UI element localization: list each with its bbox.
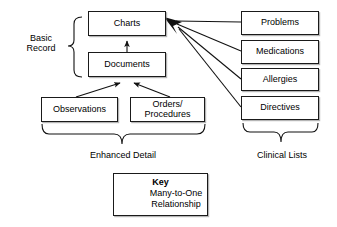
node-directives[interactable]: Directives xyxy=(241,96,319,120)
group-label-enhanced-detail: Enhanced Detail xyxy=(62,150,184,160)
node-medications-label: Medications xyxy=(256,47,304,57)
enhanced-detail-brace xyxy=(42,124,205,144)
node-observations-label: Observations xyxy=(53,105,106,115)
key-legend-box: Key Many-to-One Relationship xyxy=(113,173,208,216)
key-title: Key xyxy=(114,177,207,187)
clinical-lists-brace xyxy=(243,123,318,142)
node-orders-procedures-label: Orders/ Procedures xyxy=(144,100,190,120)
key-description: Many-to-One Relationship xyxy=(144,188,208,211)
diagram-canvas: Charts Documents Observations Orders/ Pr… xyxy=(0,0,337,227)
node-charts-label: Charts xyxy=(114,19,141,29)
basic-record-brace xyxy=(68,17,82,77)
node-problems[interactable]: Problems xyxy=(241,11,319,35)
node-directives-label: Directives xyxy=(260,103,300,113)
edge-directives-to-charts xyxy=(179,29,241,107)
node-orders-procedures[interactable]: Orders/ Procedures xyxy=(130,97,205,122)
node-documents[interactable]: Documents xyxy=(88,52,166,77)
edge-problems-to-charts xyxy=(176,21,241,22)
node-problems-label: Problems xyxy=(261,18,299,28)
edge-medications-to-charts xyxy=(177,24,241,51)
node-allergies-label: Allergies xyxy=(263,75,298,85)
node-medications[interactable]: Medications xyxy=(241,40,319,64)
edge-allergies-to-charts xyxy=(178,27,241,79)
group-label-basic-record: Basic Record xyxy=(14,33,68,54)
node-observations[interactable]: Observations xyxy=(41,97,118,122)
node-documents-label: Documents xyxy=(104,60,150,70)
node-charts[interactable]: Charts xyxy=(88,11,166,36)
edge-orders-to-documents xyxy=(134,83,170,97)
node-allergies[interactable]: Allergies xyxy=(241,68,319,91)
group-label-clinical-lists: Clinical Lists xyxy=(240,150,324,160)
edge-observations-to-documents xyxy=(76,83,120,97)
